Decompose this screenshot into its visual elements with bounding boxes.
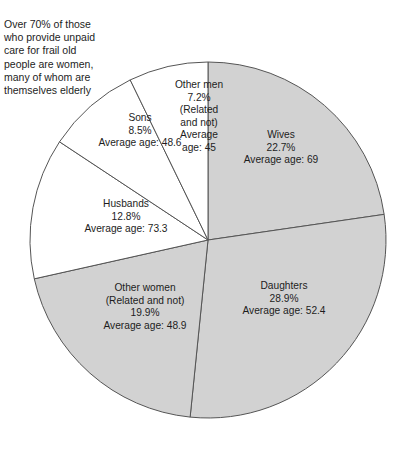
pie-chart-svg xyxy=(0,0,408,449)
pie-chart-figure: Over 70% of those who provide unpaid car… xyxy=(0,0,408,449)
pie-slice-daughters xyxy=(190,214,386,418)
pie-slices-group xyxy=(30,62,386,418)
pie-slice-wives xyxy=(208,62,384,240)
